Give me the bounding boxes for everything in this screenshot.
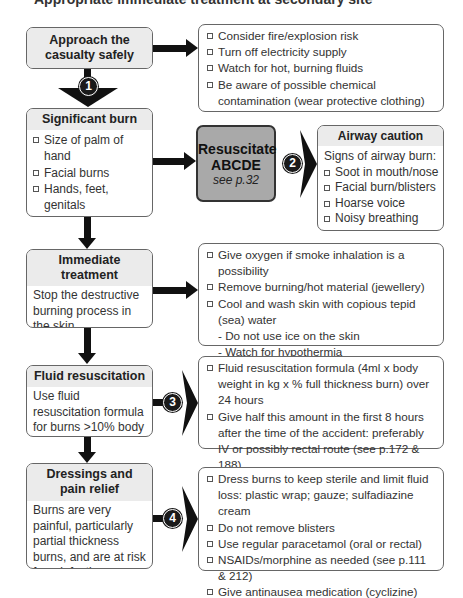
- criteria-item: Facial burns: [33, 165, 147, 181]
- detail-item: Do not remove blisters: [207, 520, 437, 536]
- step-number-4-badge: 4: [163, 509, 182, 528]
- airway-sign-item: Hoarse voice: [324, 196, 439, 212]
- criteria-item: Hands, feet, genitals: [33, 181, 147, 214]
- arrow-head-right-icon: [186, 281, 198, 299]
- detail-item: Cool and wash skin with copious tepid (s…: [207, 296, 437, 328]
- dressings-details-box: Dress burns to keep sterile and limit fl…: [198, 467, 444, 571]
- burn-criteria-list: Size of palm of hand Facial burns Hands,…: [27, 130, 152, 217]
- step-dressings-pain-relief-title: Dressings and pain relief: [27, 464, 152, 501]
- airway-caution-title: Airway caution: [318, 126, 443, 146]
- detail-item: Fluid resuscitation formula (4ml x body …: [207, 360, 437, 409]
- arrow-shaft-right: [153, 287, 187, 294]
- sub-detail-item: - Do not use ice on the skin: [207, 328, 437, 344]
- airway-intro: Signs of airway burn:: [324, 149, 439, 165]
- arrow-head-down-icon: [78, 353, 96, 364]
- step-immediate-treatment-box: Immediate treatment Stop the destructive…: [26, 249, 153, 328]
- step-dressings-pain-relief-box: Dressings and pain relief Burns are very…: [26, 463, 153, 569]
- detail-item: Give half this amount in the first 8 hou…: [207, 409, 437, 474]
- airway-sign-item: Soot in mouth/nose: [324, 165, 439, 181]
- detail-item: Consider fire/explosion risk: [207, 28, 437, 44]
- step-significant-burn-box: Significant burn Size of palm of hand Fa…: [26, 108, 153, 217]
- arrow-shaft-right: [153, 158, 185, 165]
- detail-item: Use regular paracetamol (oral or rectal): [207, 536, 437, 552]
- resuscitate-abcde-box: Resuscitate ABCDE see p.32: [196, 125, 276, 202]
- step-fluid-resuscitation-box: Fluid resuscitation Use fluid resuscitat…: [26, 365, 153, 437]
- step-approach-title: Approach the casualty safely: [27, 28, 152, 69]
- step-fluid-resuscitation-title: Fluid resuscitation: [27, 366, 152, 387]
- immediate-treatment-details-box: Give oxygen if smoke inhalation is a pos…: [198, 243, 444, 346]
- approach-details-box: Consider fire/explosion risk Turn off el…: [198, 24, 444, 112]
- airway-sign-item: Facial burn/blisters: [324, 180, 439, 196]
- detail-item: Watch for hot, burning fluids: [207, 60, 437, 76]
- fluid-resuscitation-details-box: Fluid resuscitation formula (4ml x body …: [198, 356, 444, 449]
- step-immediate-treatment-body: Stop the destructive burning process in …: [27, 286, 152, 328]
- step-number-2-badge: 2: [283, 154, 302, 173]
- step-approach-box: Approach the casualty safely: [26, 27, 153, 69]
- detail-item: NSAIDs/morphine as needed (see p.111 & 2…: [207, 552, 437, 584]
- detail-item: Turn off electricity supply: [207, 44, 437, 60]
- step-dressings-pain-relief-body: Burns are very painful, particularly par…: [27, 501, 152, 569]
- resuscitate-label: Resuscitate: [198, 141, 274, 157]
- criteria-item: Size of palm of hand: [33, 132, 147, 165]
- airway-signs-list: Signs of airway burn: Soot in mouth/nose…: [318, 146, 443, 229]
- detail-item: Be aware of possible chemical contaminat…: [207, 77, 437, 109]
- detail-item: Give oxygen if smoke inhalation is a pos…: [207, 247, 437, 279]
- abcde-label: ABCDE: [198, 157, 274, 173]
- detail-item: Dress burns to keep sterile and limit fl…: [207, 471, 437, 520]
- detail-item: Remove burning/hot material (jewellery): [207, 279, 437, 295]
- step-immediate-treatment-title: Immediate treatment: [27, 250, 152, 286]
- arrow-shaft-right: [153, 45, 187, 52]
- arrow-shaft-down: [84, 328, 91, 355]
- step-number-3-badge: 3: [163, 393, 182, 412]
- step-number-1-badge: 1: [79, 77, 98, 96]
- airway-sign-item: Noisy breathing: [324, 211, 439, 227]
- chevron-right-icon: [300, 130, 318, 198]
- arrow-head-down-icon: [78, 452, 96, 463]
- page-heading-cutoff: Appropriate immediate treatment at secon…: [34, 0, 372, 7]
- arrow-head-down-icon: [78, 238, 96, 249]
- arrow-shaft-down: [84, 217, 91, 239]
- arrow-head-right-icon: [186, 39, 198, 57]
- chevron-right-icon: [182, 370, 199, 436]
- arrow-head-right-icon: [184, 152, 196, 170]
- chevron-right-icon: [182, 486, 199, 552]
- step-significant-burn-title: Significant burn: [27, 109, 152, 130]
- airway-caution-box: Airway caution Signs of airway burn: Soo…: [317, 125, 444, 231]
- step-fluid-resuscitation-body: Use fluid resuscitation formula for burn…: [27, 387, 152, 437]
- detail-item: Give antinausea medication (cyclizine): [207, 584, 437, 598]
- resuscitate-page-ref: see p.32: [198, 173, 274, 188]
